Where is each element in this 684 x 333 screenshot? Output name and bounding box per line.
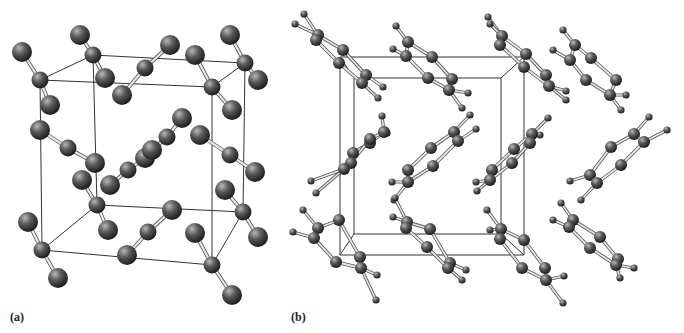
atom bbox=[300, 10, 307, 17]
atom bbox=[518, 61, 530, 73]
atom bbox=[289, 228, 296, 235]
atom bbox=[594, 231, 606, 243]
atom bbox=[539, 262, 551, 274]
atom bbox=[291, 20, 298, 27]
atom bbox=[638, 136, 650, 148]
atom bbox=[506, 157, 518, 169]
atom bbox=[307, 177, 314, 184]
atom bbox=[458, 104, 465, 111]
atom bbox=[308, 232, 320, 244]
atom bbox=[560, 272, 567, 279]
atom bbox=[494, 39, 506, 51]
atom bbox=[333, 57, 345, 69]
atom bbox=[663, 126, 670, 133]
atom bbox=[484, 13, 491, 20]
ring-molecule bbox=[484, 13, 569, 103]
atom bbox=[585, 52, 597, 64]
atom bbox=[466, 111, 473, 118]
atom bbox=[557, 199, 564, 206]
atom bbox=[486, 164, 498, 176]
ring-molecule bbox=[549, 26, 629, 113]
atom bbox=[374, 94, 381, 101]
atom bbox=[615, 159, 627, 171]
atom bbox=[616, 274, 623, 281]
atom bbox=[427, 160, 439, 172]
atom bbox=[562, 87, 569, 94]
ring-molecule bbox=[389, 22, 471, 111]
atom bbox=[464, 89, 471, 96]
atom bbox=[330, 256, 342, 268]
atom bbox=[372, 296, 379, 303]
atom bbox=[421, 241, 433, 253]
atom bbox=[379, 83, 386, 90]
atom bbox=[563, 221, 575, 233]
ring-molecule bbox=[388, 111, 479, 203]
atom bbox=[577, 196, 584, 203]
atom bbox=[378, 126, 390, 138]
atom bbox=[333, 214, 345, 226]
atom bbox=[610, 259, 622, 271]
atom bbox=[378, 112, 385, 119]
atom bbox=[354, 251, 366, 263]
atom bbox=[486, 20, 493, 27]
atom bbox=[604, 89, 616, 101]
atom bbox=[422, 72, 434, 84]
ring-molecule bbox=[291, 10, 386, 101]
atom bbox=[446, 73, 458, 85]
atom bbox=[458, 276, 465, 283]
atom bbox=[520, 48, 532, 60]
atom bbox=[391, 194, 398, 201]
ring-molecule bbox=[549, 199, 637, 281]
atom bbox=[518, 234, 530, 246]
atom bbox=[543, 80, 555, 92]
atom bbox=[364, 133, 376, 145]
atom bbox=[617, 106, 624, 113]
atom bbox=[580, 74, 592, 86]
panel-b-diagram bbox=[0, 0, 684, 333]
atom bbox=[462, 266, 469, 273]
atom bbox=[389, 213, 396, 220]
atom bbox=[312, 189, 319, 196]
atom bbox=[400, 222, 412, 234]
atom bbox=[337, 44, 349, 56]
atom bbox=[452, 135, 464, 147]
atom bbox=[299, 206, 306, 213]
atom bbox=[483, 206, 490, 213]
atom bbox=[310, 34, 322, 46]
atom bbox=[645, 113, 652, 120]
atom bbox=[472, 178, 479, 185]
atom bbox=[544, 114, 551, 121]
atom bbox=[424, 223, 436, 235]
atom bbox=[400, 50, 412, 62]
atom bbox=[443, 84, 455, 96]
atom bbox=[540, 69, 552, 81]
ring-molecule bbox=[307, 112, 390, 196]
atom bbox=[486, 226, 493, 233]
atom bbox=[628, 128, 640, 140]
crystal-structure-figure: (a) (b) bbox=[0, 0, 684, 333]
atom bbox=[355, 262, 367, 274]
atom bbox=[524, 137, 536, 149]
atom bbox=[566, 177, 573, 184]
atom bbox=[484, 174, 496, 186]
atom bbox=[559, 26, 566, 33]
atom bbox=[591, 177, 603, 189]
atom bbox=[610, 74, 622, 86]
atom bbox=[402, 176, 414, 188]
atom bbox=[622, 91, 629, 98]
atom bbox=[562, 96, 569, 103]
atom bbox=[564, 54, 576, 66]
atom bbox=[569, 39, 581, 51]
ring-molecule bbox=[472, 114, 551, 194]
atom bbox=[426, 51, 438, 63]
atom bbox=[389, 45, 396, 52]
atom bbox=[516, 262, 528, 274]
ring-molecule bbox=[389, 194, 469, 283]
atom bbox=[540, 274, 552, 286]
atom bbox=[549, 46, 556, 53]
atom bbox=[442, 262, 454, 274]
atom bbox=[347, 147, 359, 159]
panel-label-a: (a) bbox=[10, 310, 24, 325]
atom bbox=[472, 125, 479, 132]
atom bbox=[402, 36, 414, 48]
